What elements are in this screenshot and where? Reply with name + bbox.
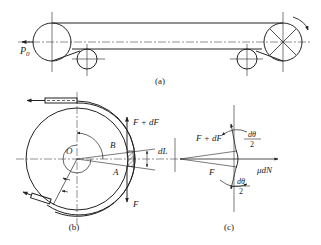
point-a-label: A: [112, 167, 119, 177]
force-f-plus-df-label: F + dF: [132, 117, 160, 127]
dl-label: dL: [158, 146, 168, 156]
panel-a-conveyor: [18, 12, 312, 76]
panel-c-caption: (c): [224, 222, 234, 232]
svg-text:2: 2: [250, 140, 254, 149]
panel-b-drum: [16, 92, 178, 225]
point-b-label: B: [110, 140, 116, 150]
svg-text:dθ: dθ: [237, 177, 245, 186]
panel-b-caption: (b): [69, 222, 80, 232]
center-o-label: O: [66, 146, 73, 156]
c-force-f-label: F: [208, 167, 215, 177]
panel-a-caption: (a): [155, 76, 165, 86]
angle-fraction-top: dθ 2: [244, 130, 261, 149]
force-p0-label: P0: [19, 45, 30, 58]
c-force-f-plus-df-label: F + dF: [195, 133, 223, 143]
svg-text:2: 2: [239, 187, 243, 196]
panel-c-element: [180, 105, 278, 212]
svg-text:dθ: dθ: [248, 130, 256, 139]
belt-friction-diagram: P0 (a) O B A F: [0, 0, 321, 245]
force-f-label: F: [132, 199, 139, 209]
friction-label: μdN: [256, 165, 273, 175]
